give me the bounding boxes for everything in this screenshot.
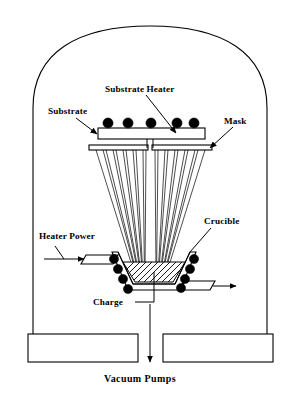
leader-crucible (190, 228, 211, 252)
base-plate-right (163, 334, 273, 362)
coil-dot (113, 264, 122, 273)
label-substrate: Substrate (48, 106, 87, 116)
beam-ray (157, 150, 158, 272)
coil-dot (123, 284, 132, 293)
coil-dot (103, 118, 113, 128)
diagram-canvas: Substrate Heater Substrate Mask Heater P… (0, 0, 301, 404)
coil-dot (189, 254, 198, 263)
coil-dot (118, 274, 127, 283)
coil-dot (146, 118, 156, 128)
leader-heater-power-tick (55, 246, 64, 259)
coil-dot (180, 274, 189, 283)
coil-dot (176, 283, 185, 292)
label-substrate-heater: Substrate Heater (105, 84, 175, 94)
mask (89, 145, 212, 150)
label-heater-power: Heater Power (39, 231, 95, 241)
coil-dot (109, 254, 118, 263)
substrate-plate (98, 128, 205, 139)
substrate-heater-coils (103, 118, 199, 128)
beam-ray (155, 150, 156, 272)
leader-mask (210, 127, 233, 148)
coil-dot (189, 118, 199, 128)
label-vacuum-pumps: Vacuum Pumps (104, 373, 176, 384)
label-charge: Charge (93, 297, 123, 307)
coil-dot (123, 118, 133, 128)
coil-dot (185, 264, 194, 273)
beam-ray (143, 150, 144, 272)
base-plate-left (28, 334, 138, 362)
label-crucible: Crucible (204, 216, 239, 226)
label-mask: Mask (224, 116, 247, 126)
beam-ray (136, 150, 143, 272)
coil-dot (172, 118, 182, 128)
beam-ray (158, 150, 165, 272)
vacuum-evaporation-diagram: Substrate Heater Substrate Mask Heater P… (0, 0, 301, 404)
mask-left-segment (89, 145, 148, 150)
mask-right-segment (152, 145, 212, 150)
beam-ray (145, 150, 146, 272)
leader-substrate (76, 118, 97, 134)
